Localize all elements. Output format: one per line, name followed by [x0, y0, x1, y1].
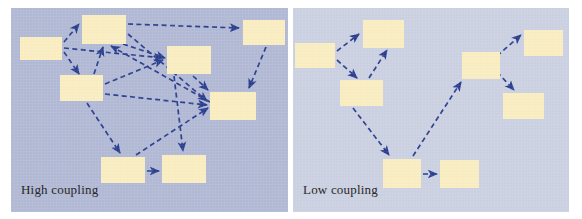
node-box	[363, 20, 404, 48]
arrow-h1-h2	[64, 24, 79, 42]
arrow-l3-l7	[353, 108, 389, 155]
node-box	[210, 92, 256, 120]
node-box	[20, 37, 62, 60]
arrow-h3-h7	[87, 103, 120, 153]
arrow-h4-h8	[174, 76, 183, 151]
node-box	[295, 43, 335, 68]
arrow-l1-l3	[337, 60, 357, 78]
panel-high-coupling-caption: High coupling	[21, 183, 98, 196]
node-box	[383, 159, 421, 188]
arrow-h3-h6	[105, 94, 207, 105]
node-box	[167, 46, 211, 74]
panel-low-coupling: Low coupling	[293, 8, 569, 212]
node-box	[101, 157, 145, 183]
panel-low-coupling-caption: Low coupling	[303, 183, 378, 196]
panel-high-coupling: High coupling	[11, 8, 288, 212]
arrow-h1-h3	[64, 52, 79, 74]
node-box	[82, 15, 126, 44]
arrow-l7-l4	[413, 82, 461, 156]
node-box	[162, 155, 206, 183]
node-box	[503, 93, 544, 119]
node-box	[60, 75, 103, 101]
arrow-l1-l2	[337, 34, 359, 51]
node-box	[462, 52, 500, 79]
arrow-l4-l5	[497, 35, 521, 56]
node-box	[340, 80, 383, 106]
arrow-h2-h5	[128, 24, 239, 28]
arrow-h5-h6	[249, 47, 266, 88]
node-box	[440, 160, 479, 188]
node-box	[524, 30, 563, 56]
arrow-h4-h6	[193, 76, 208, 90]
arrow-l3-l2	[369, 50, 387, 78]
arrow-h7-h6	[136, 108, 208, 155]
node-box	[243, 20, 285, 45]
arrow-h3-h4	[105, 60, 163, 84]
figure-canvas: High coupling	[0, 0, 582, 219]
